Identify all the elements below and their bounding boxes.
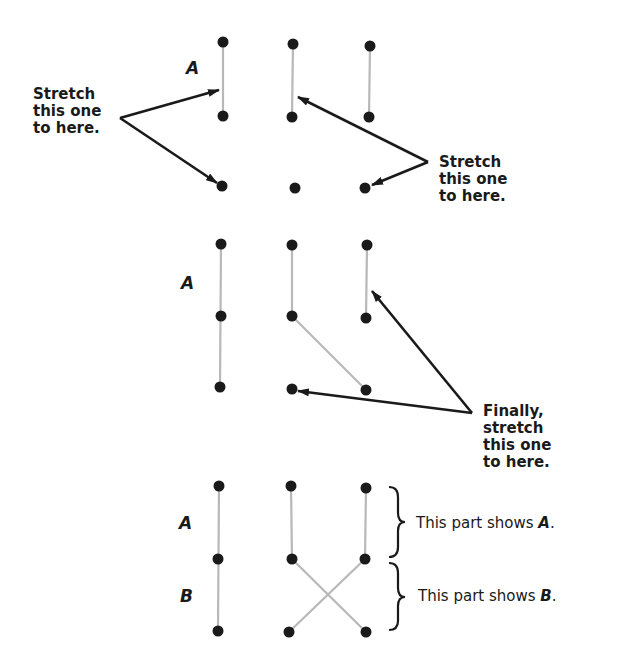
peg-dot [365,41,376,52]
label-a: A [179,513,192,533]
peg-dot [215,382,226,393]
peg-dot [361,313,372,324]
note-letter: A [538,514,550,532]
callout-line: this one [33,103,101,120]
brace-icon [389,563,405,630]
peg-dot [216,311,227,322]
peg-dot [288,39,299,50]
peg-dot [287,311,298,322]
callout-finally: Finally, stretch this one to here. [483,403,551,471]
callout-line: this one [439,171,507,188]
label-b: B [180,586,193,606]
peg-dot [287,112,298,123]
peg-dot [287,240,298,251]
arrow-icon [298,97,428,162]
callout-line: this one [483,437,551,454]
peg-dot [360,554,371,565]
peg-dot [361,385,372,396]
peg-dot [287,384,298,395]
peg-dot [287,554,298,565]
peg-dot [364,112,375,123]
peg-dot [217,181,228,192]
string-segment [366,245,367,318]
peg-dot [290,183,301,194]
callout-left: Stretch this one to here. [33,86,101,137]
peg-dot [361,627,372,638]
note-letter: B [540,587,551,605]
string-segment [292,44,293,117]
callout-line: Stretch [33,86,101,103]
note-text: This part shows [418,587,540,605]
label-a: A [181,273,194,293]
string-segment [369,46,370,117]
label-a: A [186,58,199,78]
callout-line: to here. [483,454,551,471]
panel-3 [213,481,406,638]
panel-1 [120,37,428,194]
peg-dot [361,483,372,494]
arrow-icon [372,291,472,413]
callout-line: to here. [33,120,101,137]
note-part-b: This part shows B. [418,587,557,605]
note-part-a: This part shows A. [416,514,555,532]
peg-dot [362,240,373,251]
note-period: . [550,514,555,532]
peg-dot [213,554,224,565]
note-period: . [552,587,557,605]
arrow-icon [298,391,472,413]
arrow-icon [372,162,428,185]
peg-dot [218,111,229,122]
note-text: This part shows [416,514,538,532]
panel-2 [215,239,473,414]
callout-right: Stretch this one to here. [439,154,507,205]
peg-dot [216,239,227,250]
string-segment [365,488,366,559]
arrow-icon [120,90,219,118]
callout-line: Stretch [439,154,507,171]
peg-dot [218,37,229,48]
peg-dot [286,481,297,492]
string-segment [291,486,292,559]
arrow-icon [120,118,217,183]
string-segment [292,316,366,390]
brace-icon [389,487,405,557]
peg-dot [360,183,371,194]
peg-dot [213,626,224,637]
callout-line: stretch [483,420,551,437]
callout-line: Finally, [483,403,551,420]
peg-dot [214,481,225,492]
peg-dot [284,627,295,638]
callout-line: to here. [439,188,507,205]
